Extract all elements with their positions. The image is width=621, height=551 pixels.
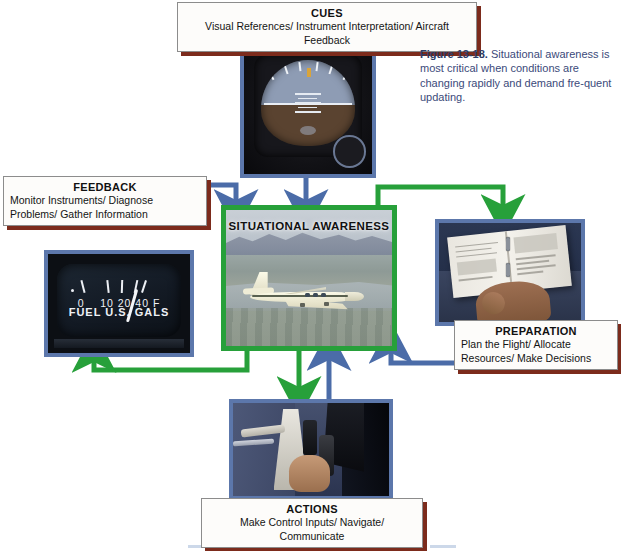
airplane-illustration (243, 271, 363, 317)
arrow-feedback-to-sa (207, 185, 236, 205)
actions-label-box: ACTIONS Make Control Inputs/ Navigate/ C… (201, 498, 423, 548)
figure-caption-label: Figure 13-18. (420, 48, 488, 60)
figure-caption: Figure 13-18. Situational awareness is m… (420, 47, 616, 105)
feedback-title: FEEDBACK (10, 180, 200, 194)
cues-label-box: CUES Visual References/ Instrument Inter… (177, 2, 477, 52)
cues-body: Visual References/ Instrument Interpreta… (184, 20, 470, 47)
page-bleed-artifact (430, 545, 456, 548)
preparation-title: PREPARATION (461, 324, 611, 338)
figure-diagram: CUES Visual References/ Instrument Inter… (0, 0, 621, 551)
situational-awareness-title: SITUATIONAL AWARENESS (226, 220, 392, 232)
fuel-gauge-caption: FUEL U.S. GALS (57, 306, 182, 318)
preparation-label-box: PREPARATION Plan the Flight/ Allocate Re… (454, 320, 618, 370)
cues-title: CUES (184, 6, 470, 20)
actions-body: Make Control Inputs/ Navigate/ Communica… (208, 516, 416, 543)
preparation-body: Plan the Flight/ Allocate Resources/ Mak… (461, 338, 611, 365)
pilot-hand-on-controls (289, 455, 330, 492)
cues-photo-attitude-indicator (240, 41, 376, 178)
situational-awareness-center: SITUATIONAL AWARENESS (221, 205, 397, 351)
attitude-indicator-knob (333, 135, 365, 167)
actions-title: ACTIONS (208, 502, 416, 516)
feedback-body: Monitor Instruments/ Diagnose Problems/ … (10, 194, 200, 221)
feedback-photo-fuel-gauge: 0 10 20 40 F FUEL U.S. GALS (44, 250, 194, 357)
actions-photo-cockpit-controls (229, 399, 393, 500)
feedback-label-box: FEEDBACK Monitor Instruments/ Diagnose P… (3, 176, 207, 226)
preparation-photo-flight-manual (435, 219, 585, 326)
fuel-gauge-face: 0 10 20 40 F FUEL U.S. GALS (57, 264, 182, 337)
